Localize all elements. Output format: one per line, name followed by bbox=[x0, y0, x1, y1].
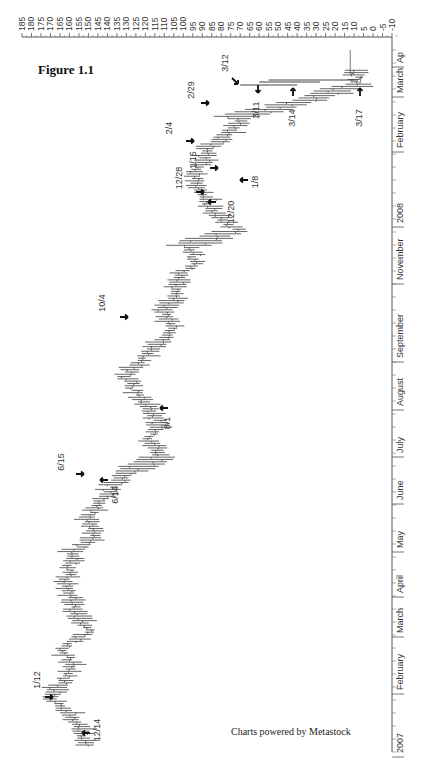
price-tick-label: 135 bbox=[112, 17, 122, 31]
price-tick-label: 20 bbox=[330, 21, 340, 31]
price-tick-label: 5 bbox=[359, 26, 369, 31]
arrow-icon bbox=[208, 200, 216, 205]
price-tick-label: 75 bbox=[226, 21, 236, 31]
price-chart: 1851801751701651601551501451401351301251… bbox=[0, 0, 437, 763]
annotations: 12/141/126/146/158/110/412/2012/281/81/1… bbox=[32, 54, 364, 741]
arrow-icon bbox=[256, 85, 261, 93]
price-tick-label: -5 bbox=[378, 23, 388, 31]
price-tick-label: 15 bbox=[340, 21, 350, 31]
arrow-icon bbox=[358, 88, 363, 96]
figure-title: Figure 1.1 bbox=[38, 62, 94, 78]
annotation: 2/4 bbox=[164, 122, 194, 144]
price-tick-label: 165 bbox=[55, 17, 65, 31]
annotation: 3/12 bbox=[220, 54, 238, 84]
time-tick-label: March bbox=[395, 68, 405, 93]
time-tick-label: September bbox=[395, 314, 405, 358]
arrow-icon bbox=[201, 101, 209, 106]
price-tick-label: 30 bbox=[311, 21, 321, 31]
arrow-icon bbox=[120, 315, 128, 320]
time-tick-label: February bbox=[395, 111, 405, 148]
time-tick-label: August bbox=[395, 377, 405, 406]
annotation: 8/1 bbox=[160, 406, 172, 430]
price-tick-label: 35 bbox=[302, 21, 312, 31]
arrow-icon bbox=[100, 478, 108, 483]
price-tick-label: 25 bbox=[321, 21, 331, 31]
time-tick-label: 2007 bbox=[395, 733, 405, 753]
price-tick-label: 50 bbox=[273, 21, 283, 31]
time-tick-label: April bbox=[395, 575, 405, 593]
arrow-icon bbox=[291, 88, 296, 96]
annotation-label: 10/4 bbox=[97, 294, 107, 312]
price-tick-label: 160 bbox=[64, 17, 74, 31]
arrow-icon bbox=[232, 78, 238, 84]
price-tick-label: 10 bbox=[349, 21, 359, 31]
time-tick-label: May bbox=[395, 530, 405, 548]
price-tick-label: -10 bbox=[387, 18, 397, 31]
annotation-label: 1/12 bbox=[32, 671, 42, 689]
price-tick-label: 145 bbox=[93, 17, 103, 31]
arrow-icon bbox=[160, 406, 168, 411]
annotation-label: 3/14 bbox=[287, 109, 297, 127]
time-tick-label: 2008 bbox=[395, 203, 405, 223]
annotation: 10/4 bbox=[97, 294, 128, 319]
price-tick-label: 105 bbox=[169, 17, 179, 31]
time-tick-label: November bbox=[395, 238, 405, 280]
annotation-label: 3/11 bbox=[251, 102, 261, 119]
annotation-label: 3/12 bbox=[220, 54, 230, 72]
price-tick-label: 60 bbox=[254, 21, 264, 31]
annotation: 6/15 bbox=[56, 453, 84, 476]
time-tick-label: July bbox=[395, 436, 405, 453]
price-tick-label: 100 bbox=[178, 17, 188, 31]
time-tick-label: March bbox=[395, 608, 405, 633]
annotation-label: 6/14 bbox=[110, 486, 120, 504]
time-tick-label: February bbox=[395, 653, 405, 690]
arrow-icon bbox=[210, 166, 218, 171]
price-tick-label: 65 bbox=[245, 21, 255, 31]
annotation: 3/11 bbox=[251, 85, 261, 118]
chart-credit: Charts powered by Metastock bbox=[231, 726, 351, 737]
time-tick-label: Ap bbox=[395, 52, 405, 63]
price-tick-label: 150 bbox=[83, 17, 93, 31]
price-tick-label: 185 bbox=[17, 17, 27, 31]
price-tick-label: 95 bbox=[188, 21, 198, 31]
annotation: 2/29 bbox=[186, 81, 209, 105]
price-tick-label: 40 bbox=[292, 21, 302, 31]
price-tick-label: 170 bbox=[45, 17, 55, 31]
annotation: 1/8 bbox=[240, 176, 260, 189]
price-tick-label: 120 bbox=[140, 17, 150, 31]
price-tick-label: 140 bbox=[102, 17, 112, 31]
annotation-label: 8/1 bbox=[162, 417, 172, 430]
annotation-label: 2/29 bbox=[186, 81, 196, 99]
price-tick-label: 85 bbox=[207, 21, 217, 31]
annotation-label: 12/14 bbox=[92, 719, 102, 742]
arrow-icon bbox=[240, 178, 248, 183]
price-tick-label: 125 bbox=[131, 17, 141, 31]
time-tick-label: June bbox=[395, 480, 405, 500]
price-tick-label: 175 bbox=[36, 17, 46, 31]
arrow-icon bbox=[186, 139, 194, 144]
annotation-label: 2/4 bbox=[164, 122, 174, 135]
price-tick-label: 110 bbox=[159, 17, 169, 31]
annotation: 3/17 bbox=[354, 88, 364, 127]
price-tick-label: 70 bbox=[235, 21, 245, 31]
chart-axes: 1851801751701651601551501451401351301251… bbox=[17, 17, 405, 757]
annotation-label: 1/15 bbox=[188, 151, 198, 169]
price-bars bbox=[42, 50, 373, 747]
annotation-label: 12/20 bbox=[226, 201, 236, 224]
annotation-label: 6/15 bbox=[56, 453, 66, 471]
annotation: 1/15 bbox=[188, 151, 218, 170]
price-tick-label: 180 bbox=[26, 17, 36, 31]
annotation-label: 3/17 bbox=[354, 109, 364, 127]
price-tick-label: 115 bbox=[150, 17, 160, 31]
price-tick-label: 130 bbox=[121, 17, 131, 31]
price-tick-label: 90 bbox=[197, 21, 207, 31]
arrow-icon bbox=[76, 472, 84, 477]
price-tick-label: 80 bbox=[216, 21, 226, 31]
annotation-label: 1/8 bbox=[250, 176, 260, 189]
price-tick-label: 45 bbox=[283, 21, 293, 31]
annotation-label: 12/28 bbox=[174, 167, 184, 190]
price-tick-label: 0 bbox=[368, 26, 378, 31]
price-tick-label: 55 bbox=[264, 21, 274, 31]
price-tick-label: 155 bbox=[74, 17, 84, 31]
